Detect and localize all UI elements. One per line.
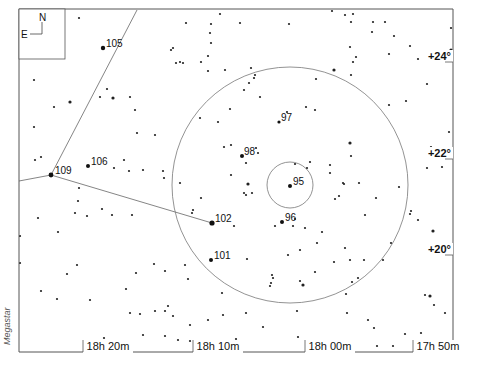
star	[111, 214, 113, 216]
star	[179, 182, 181, 184]
star	[142, 169, 144, 171]
y-tick-label: +24°	[428, 50, 451, 62]
star	[163, 177, 165, 179]
star	[185, 22, 187, 24]
star	[316, 242, 318, 244]
star	[243, 89, 245, 91]
star	[209, 32, 211, 34]
star	[111, 96, 114, 99]
star-label-98: 98	[244, 146, 256, 157]
background	[0, 0, 494, 365]
star	[388, 104, 390, 106]
star	[154, 310, 156, 312]
star	[153, 263, 155, 265]
star-label-109: 109	[55, 165, 72, 176]
star	[135, 272, 137, 274]
star-95[interactable]	[288, 184, 292, 188]
star	[388, 53, 390, 55]
star	[164, 270, 166, 272]
star	[77, 200, 79, 202]
star	[40, 156, 42, 158]
star	[270, 282, 272, 284]
star-109[interactable]	[49, 173, 54, 178]
star	[384, 21, 386, 23]
star	[292, 225, 294, 227]
star-101[interactable]	[209, 258, 213, 262]
star	[417, 58, 419, 60]
star	[134, 109, 136, 111]
star	[74, 212, 76, 214]
star-96[interactable]	[280, 220, 284, 224]
star	[410, 210, 412, 212]
star	[342, 182, 344, 184]
star	[224, 69, 226, 71]
star	[331, 10, 333, 12]
star	[272, 277, 274, 279]
star	[37, 217, 39, 219]
star	[184, 264, 186, 266]
star	[344, 247, 346, 249]
star-106[interactable]	[86, 164, 90, 168]
star	[405, 100, 407, 102]
star	[288, 23, 290, 25]
credit-label: Megastar	[2, 306, 12, 345]
star	[296, 310, 298, 312]
star	[373, 327, 375, 329]
star	[269, 285, 271, 287]
star-label-97: 97	[281, 112, 293, 123]
star	[179, 61, 181, 63]
star	[230, 144, 232, 146]
star	[78, 187, 80, 189]
star	[199, 117, 201, 119]
compass-rose: N E	[19, 9, 65, 59]
star	[248, 82, 250, 84]
star	[409, 45, 411, 47]
star	[363, 259, 365, 261]
star	[217, 121, 219, 123]
star	[189, 324, 191, 326]
star	[367, 319, 369, 321]
star	[172, 47, 174, 49]
star	[223, 146, 225, 148]
star	[34, 159, 36, 161]
star	[106, 88, 108, 90]
star	[299, 280, 301, 282]
star-102[interactable]	[209, 220, 214, 225]
star	[172, 315, 174, 317]
x-tick-label: 18h 10m	[197, 340, 240, 352]
star	[350, 21, 352, 23]
star	[426, 83, 428, 85]
star	[352, 61, 354, 63]
compass-east-label: E	[21, 29, 28, 40]
star	[246, 182, 249, 185]
star-105[interactable]	[101, 46, 105, 50]
star	[66, 273, 68, 275]
star	[404, 333, 406, 335]
star	[345, 293, 347, 295]
star	[78, 17, 80, 19]
star	[346, 312, 348, 314]
star	[128, 170, 130, 172]
star	[371, 31, 373, 33]
star	[76, 264, 78, 266]
star	[164, 310, 166, 312]
star	[306, 167, 308, 169]
star	[219, 13, 221, 15]
star-label-102: 102	[215, 213, 232, 224]
star-label-106: 106	[91, 156, 108, 167]
star	[33, 126, 35, 128]
star	[222, 314, 224, 316]
star	[233, 225, 235, 227]
star	[297, 336, 299, 338]
star	[53, 106, 55, 108]
star	[329, 164, 331, 166]
star	[56, 298, 58, 300]
star	[131, 214, 133, 216]
star	[287, 254, 289, 256]
star	[450, 27, 452, 29]
star	[207, 319, 209, 321]
star	[333, 261, 335, 263]
star	[344, 14, 346, 16]
star	[177, 339, 179, 341]
star	[351, 281, 353, 283]
